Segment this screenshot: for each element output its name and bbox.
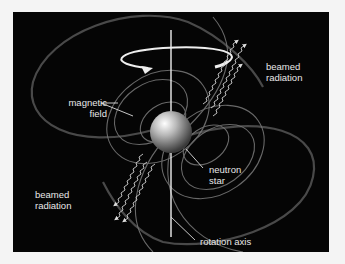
beamed-radiation-top-line1: beamed bbox=[266, 62, 302, 73]
rotation-axis-label: rotation axis bbox=[200, 237, 251, 248]
pulsar-diagram: magnetic field beamed radiation beamed r… bbox=[13, 12, 329, 252]
neutron-star-label-line2: star bbox=[209, 176, 241, 187]
beamed-radiation-bottom-label: beamed radiation bbox=[35, 190, 71, 211]
beamed-radiation-bottom-line2: radiation bbox=[35, 201, 71, 212]
magnetic-field-label-line2: field bbox=[51, 109, 107, 120]
neutron-star-label-line1: neutron bbox=[209, 165, 241, 176]
beamed-radiation-top-label: beamed radiation bbox=[266, 62, 302, 83]
neutron-star-label: neutron star bbox=[209, 165, 241, 186]
diagram-artwork bbox=[13, 12, 329, 252]
neutron-star-sphere bbox=[150, 111, 192, 153]
beamed-radiation-bottom-line1: beamed bbox=[35, 190, 71, 201]
beamed-radiation-top-line2: radiation bbox=[266, 73, 302, 84]
magnetic-field-label-line1: magnetic bbox=[51, 98, 107, 109]
magnetic-field-label: magnetic field bbox=[51, 98, 107, 119]
rotation-arrow-icon bbox=[121, 47, 232, 74]
